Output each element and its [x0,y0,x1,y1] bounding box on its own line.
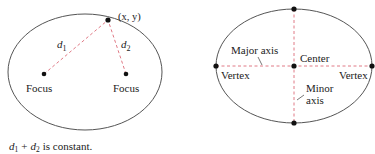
minor-vertex-bottom-point [291,120,296,125]
left-ellipse-figure: (x, y) d1 d2 Focus Focus [8,11,162,130]
point-xy [105,17,110,22]
vertex-left-point [213,63,218,68]
left-ellipse [8,14,162,130]
major-axis-label: Major axis [231,44,278,56]
focus-right-point [124,72,129,77]
focus-left-label: Focus [26,82,52,94]
focus-right-label: Focus [113,82,139,94]
minor-axis-leader [297,95,304,100]
minor-axis-label-line2: axis [306,94,324,106]
point-xy-label: (x, y) [118,11,141,23]
focus-left-point [42,72,47,77]
minor-vertex-top-point [291,6,296,11]
right-ellipse-figure: Major axis Center Vertex Vertex Minor ax… [213,6,374,125]
major-axis-leader [258,57,262,65]
vertex-right-label: Vertex [339,69,368,81]
d1-label: d1 [57,38,67,53]
vertex-left-label: Vertex [221,69,250,81]
caption: d1+d2is constant. [9,140,92,154]
d1-dashed-line [44,20,108,74]
center-label: Center [300,52,330,64]
minor-axis-label-line1: Minor [306,82,334,94]
d2-label: d2 [121,38,131,53]
ellipse-diagram: (x, y) d1 d2 Focus Focus d1+d2is constan… [0,0,375,154]
vertex-right-point [369,63,374,68]
center-point [291,63,296,68]
